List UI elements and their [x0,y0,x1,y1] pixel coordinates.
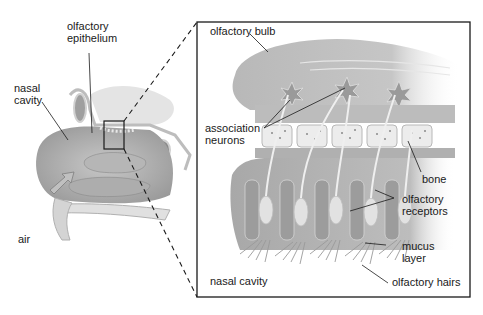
label-olfactory-receptors: olfactory receptors [402,193,448,217]
label-olfactory-hairs: olfactory hairs [392,276,460,288]
label-association-neurons: association neurons [205,122,260,146]
label-olfactory-bulb: olfactory bulb [210,25,275,37]
label-olfactory-epithelium: olfactory epithelium [67,20,117,44]
label-air: air [18,233,30,245]
anatomy-illustration [0,0,483,315]
label-nasal-cavity-detail: nasal cavity [210,275,267,287]
nose-cross-section [36,86,190,240]
label-nasal-cavity-overview: nasal cavity [14,82,42,106]
detail-illustration [230,39,460,264]
label-bone: bone [422,173,446,185]
diagram-stage: olfactory epithelium nasal cavity air ol… [0,0,483,315]
label-mucus-layer: mucus layer [402,240,434,264]
